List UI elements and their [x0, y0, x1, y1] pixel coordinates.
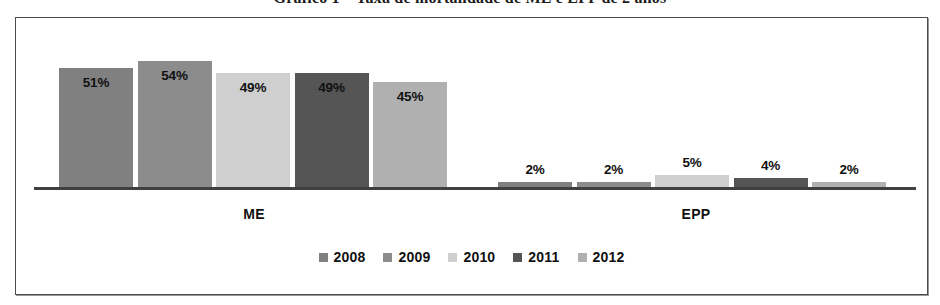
legend-item-2012[interactable]: 2012 — [578, 249, 625, 265]
bar-epp-2010: 5% — [655, 175, 729, 187]
legend-item-2008[interactable]: 2008 — [319, 249, 366, 265]
bar-me-2011: 49% — [295, 73, 369, 187]
legend-swatch-icon — [319, 253, 328, 262]
bar-me-2008: 51% — [59, 68, 133, 187]
legend-swatch-icon — [513, 253, 522, 262]
bar-value-label: 49% — [216, 80, 290, 95]
bar-value-label: 2% — [812, 162, 886, 177]
legend-label: 2010 — [463, 249, 495, 265]
bar-value-label: 4% — [734, 158, 808, 173]
bar-value-label: 2% — [577, 162, 651, 177]
bar-epp-2009: 2% — [577, 182, 651, 187]
bar-value-label: 54% — [138, 68, 212, 83]
legend-swatch-icon — [383, 253, 392, 262]
bar-me-2010: 49% — [216, 73, 290, 187]
legend-label: 2008 — [334, 249, 366, 265]
bar-value-label: 51% — [59, 75, 133, 90]
category-label-epp: EPP — [476, 206, 916, 222]
bar-me-2012: 45% — [373, 82, 447, 187]
plot-area: 51%54%49%49%45%2%2%5%4%2% ME EPP 2008200… — [16, 18, 927, 294]
legend-label: 2011 — [528, 249, 559, 265]
chart-legend: 20082009201020112012 — [16, 249, 927, 265]
legend-label: 2009 — [398, 249, 430, 265]
legend-label: 2012 — [593, 249, 625, 265]
legend-item-2010[interactable]: 2010 — [448, 249, 495, 265]
bar-value-label: 45% — [373, 89, 447, 104]
figure-title: Gráfico 1 – Taxa de mortalidade de ME e … — [0, 0, 940, 7]
legend-swatch-icon — [448, 253, 457, 262]
legend-item-2009[interactable]: 2009 — [383, 249, 430, 265]
chart-frame: 51%54%49%49%45%2%2%5%4%2% ME EPP 2008200… — [15, 17, 928, 295]
legend-item-2011[interactable]: 2011 — [513, 249, 559, 265]
bar-epp-2008: 2% — [498, 182, 572, 187]
category-axis-line — [34, 187, 916, 190]
category-label-me: ME — [34, 206, 474, 222]
bar-value-label: 49% — [295, 80, 369, 95]
bar-value-label: 2% — [498, 162, 572, 177]
bar-epp-2011: 4% — [734, 178, 808, 187]
bar-epp-2012: 2% — [812, 182, 886, 187]
bar-me-2009: 54% — [138, 61, 212, 187]
bar-value-label: 5% — [655, 155, 729, 170]
legend-swatch-icon — [578, 253, 587, 262]
